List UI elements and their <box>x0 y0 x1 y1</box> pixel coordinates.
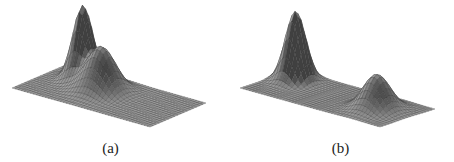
panel-b: (b) <box>227 0 454 162</box>
surface-plot-a <box>0 0 227 140</box>
surface-plot-b <box>227 0 454 140</box>
caption-a: (a) <box>0 140 224 157</box>
caption-b: (b) <box>227 140 454 157</box>
panel-a: (a) <box>0 0 227 162</box>
